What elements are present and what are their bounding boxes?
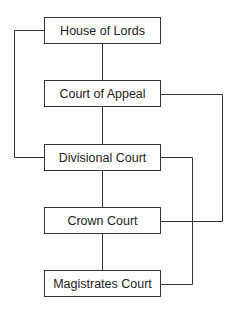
edge-hol-div bbox=[15, 31, 45, 158]
node-divisional-court: Divisional Court bbox=[44, 144, 161, 171]
node-court-of-appeal: Court of Appeal bbox=[44, 80, 161, 107]
node-magistrates-court: Magistrates Court bbox=[44, 270, 161, 297]
node-crown-court: Crown Court bbox=[44, 207, 161, 234]
node-house-of-lords: House of Lords bbox=[44, 17, 161, 44]
